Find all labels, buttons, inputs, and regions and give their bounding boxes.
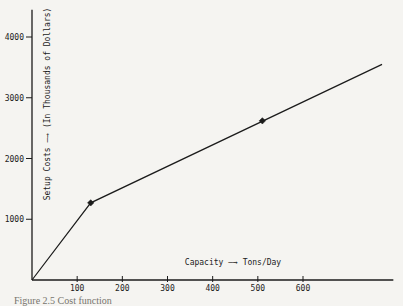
scanned-chart-page: 1002003004005006001000200030004000 Capac… (0, 0, 403, 306)
x-tick-label: 300 (160, 284, 175, 293)
y-tick-label: 4000 (5, 33, 24, 42)
data-point-marker (259, 118, 265, 124)
x-tick-label: 500 (251, 284, 266, 293)
series-line (32, 64, 382, 280)
y-tick-label: 3000 (5, 94, 24, 103)
x-tick-label: 100 (70, 284, 85, 293)
x-axis-label: Capacity —→ Tons/Day (185, 258, 281, 267)
y-tick-label: 1000 (5, 215, 24, 224)
x-tick-label: 200 (115, 284, 130, 293)
y-axis-label: Setup Costs —→ (In Thousands of Dollars) (43, 8, 52, 201)
figure-caption: Figure 2.5 Cost function (14, 295, 112, 306)
x-tick-label: 400 (205, 284, 220, 293)
x-tick-label: 600 (296, 284, 311, 293)
y-tick-label: 2000 (5, 155, 24, 164)
